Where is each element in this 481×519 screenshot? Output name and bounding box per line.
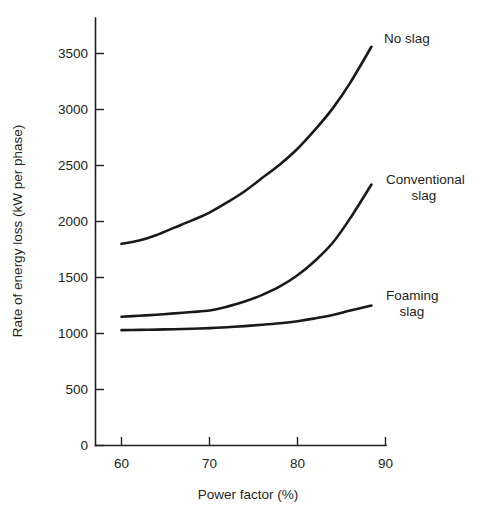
x-tick-label: 80 <box>290 456 305 471</box>
y-tick-label: 2000 <box>58 214 88 229</box>
y-tick-label: 3000 <box>58 102 88 117</box>
y-axis-title: Rate of energy loss (kW per phase) <box>10 125 25 337</box>
chart-figure: 3500 3000 2500 2000 1500 1000 500 0 60 7… <box>0 0 481 519</box>
x-axis-title: Power factor (%) <box>198 487 299 502</box>
chart-plot-area: 3500 3000 2500 2000 1500 1000 500 0 60 7… <box>0 0 481 519</box>
y-tick-label: 500 <box>65 382 88 397</box>
series-label-foaming-slag-line1: Foaming <box>386 288 439 303</box>
y-tick-label: 3500 <box>58 46 88 61</box>
x-axis-ticks <box>122 437 386 446</box>
y-axis-ticks <box>96 54 105 446</box>
x-tick-label: 70 <box>202 456 217 471</box>
x-tick-label: 60 <box>114 456 129 471</box>
series-curve-foaming-slag <box>122 306 372 331</box>
series-label-no-slag: No slag <box>384 31 430 46</box>
series-curve-no-slag <box>122 47 372 244</box>
series-curve-conventional-slag <box>122 185 372 317</box>
series-label-conventional-slag-line1: Conventional <box>386 172 465 187</box>
series-label-foaming-slag-line2: slag <box>400 304 425 319</box>
y-tick-label: 2500 <box>58 158 88 173</box>
series-label-conventional-slag-line2: slag <box>412 188 437 203</box>
x-tick-label: 90 <box>378 456 393 471</box>
y-tick-label: 1500 <box>58 270 88 285</box>
y-tick-label: 0 <box>80 438 88 453</box>
y-tick-label: 1000 <box>58 326 88 341</box>
